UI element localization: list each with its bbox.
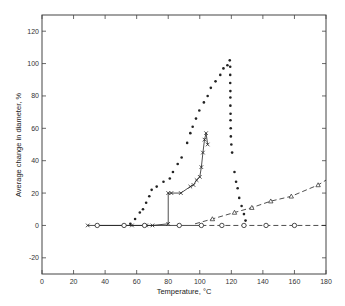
data-point	[292, 223, 296, 227]
y-tick-label: 120	[27, 28, 39, 35]
data-point	[240, 205, 243, 208]
data-point	[229, 119, 232, 122]
data-point	[242, 223, 246, 227]
data-point	[177, 223, 181, 227]
y-tick-label: 100	[27, 60, 39, 67]
data-point	[195, 178, 199, 182]
data-point	[199, 223, 203, 227]
data-point	[226, 64, 229, 67]
y-tick-label: -20	[29, 254, 39, 261]
data-point	[150, 189, 153, 192]
data-point	[236, 187, 239, 190]
y-tick-label: 60	[31, 125, 39, 132]
data-point	[122, 223, 126, 227]
data-point	[172, 171, 175, 174]
x-tick-label: 20	[70, 278, 78, 285]
data-point	[162, 180, 165, 183]
data-point	[220, 223, 224, 227]
data-point	[316, 183, 320, 187]
data-point	[228, 59, 231, 62]
data-point	[134, 218, 137, 221]
data-point	[148, 195, 151, 198]
x-tick-label: 140	[257, 278, 269, 285]
data-point	[191, 125, 194, 128]
data-point	[229, 127, 232, 130]
data-point	[155, 185, 158, 188]
y-tick-label: 40	[31, 157, 39, 164]
x-tick-label: 60	[133, 278, 141, 285]
data-point	[142, 223, 146, 227]
axis-ticks: 020406080100120140160180-200204060801001…	[27, 15, 332, 285]
data-point	[186, 142, 189, 145]
y-tick-label: 80	[31, 92, 39, 99]
data-point	[176, 163, 179, 166]
data-point	[229, 82, 232, 85]
data-point	[235, 180, 238, 183]
y-tick-label: 20	[31, 190, 39, 197]
data-point	[203, 101, 206, 104]
x-tick-label: 80	[164, 278, 172, 285]
data-point	[243, 213, 246, 216]
data-point	[214, 80, 217, 83]
y-axis-title: Average change in diameter, %	[14, 93, 23, 197]
data-point	[231, 151, 234, 154]
series-triangles	[195, 180, 326, 224]
data-point	[229, 96, 232, 99]
data-point	[222, 67, 225, 70]
data-series	[86, 59, 326, 228]
data-point	[229, 66, 232, 69]
data-point	[95, 223, 99, 227]
data-point	[206, 95, 209, 98]
data-point	[229, 112, 232, 115]
data-point	[264, 223, 268, 227]
data-point	[289, 194, 293, 198]
data-point	[189, 132, 192, 135]
data-point	[229, 74, 232, 77]
x-tick-label: 0	[40, 278, 44, 285]
data-point	[230, 135, 233, 138]
data-point	[244, 219, 247, 222]
data-point	[169, 177, 172, 180]
plot-frame	[42, 15, 326, 274]
data-point	[142, 208, 145, 211]
x-tick-label: 40	[101, 278, 109, 285]
x-axis-title: Temperature, °C	[157, 287, 212, 296]
data-point	[145, 201, 148, 204]
data-point	[230, 143, 233, 146]
data-point	[229, 90, 232, 93]
x-tick-label: 180	[320, 278, 332, 285]
data-point	[195, 117, 198, 120]
chart: 020406080100120140160180-200204060801001…	[0, 0, 345, 306]
data-point	[238, 197, 241, 200]
x-tick-label: 160	[289, 278, 301, 285]
data-point	[219, 74, 222, 77]
series-crosses	[86, 131, 210, 227]
data-point	[139, 211, 142, 214]
x-tick-label: 100	[194, 278, 206, 285]
x-tick-label: 120	[225, 278, 237, 285]
data-point	[180, 156, 183, 159]
data-point	[198, 109, 201, 112]
y-tick-label: 0	[35, 222, 39, 229]
series-dots	[129, 59, 247, 225]
data-point	[210, 87, 213, 90]
data-point	[229, 104, 232, 107]
data-point	[233, 171, 236, 174]
